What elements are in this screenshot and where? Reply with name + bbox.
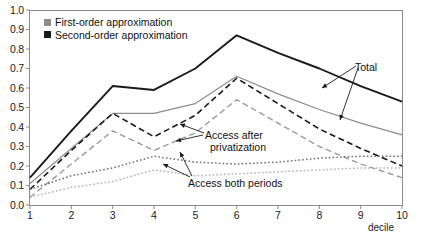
x-axis-title: decile (368, 222, 394, 233)
x-tick-label: 9 (351, 209, 371, 221)
annotation-access-after-line1: Access after (205, 129, 263, 141)
y-tick-label: 0.3 (0, 140, 24, 152)
annotation-arrow (339, 68, 358, 120)
annotation-arrow (180, 152, 192, 176)
y-tick-label: 1.0 (0, 4, 24, 16)
chart-figure: 1.00.90.80.70.60.50.40.30.20.10.0 123456… (0, 0, 422, 242)
y-tick-label: 0.1 (0, 179, 24, 191)
y-tick-label: 0.5 (0, 101, 24, 113)
y-tick-label: 0.2 (0, 160, 24, 172)
annotation-arrow (163, 164, 190, 177)
legend-label-second-order: Second-order approximation (55, 29, 188, 42)
x-tick-label: 3 (103, 209, 123, 221)
x-tick-label: 4 (144, 209, 164, 221)
x-tick-label: 8 (309, 209, 329, 221)
y-tick-label: 0.4 (0, 121, 24, 133)
annotation-arrows-layer (163, 66, 358, 177)
y-tick-label: 0.7 (0, 62, 24, 74)
legend-item-second-order: Second-order approximation (44, 29, 188, 42)
legend-item-first-order: First-order approximation (44, 16, 188, 29)
annotation-arrow (176, 135, 203, 142)
x-tick-label: 10 (392, 209, 412, 221)
series-line (30, 35, 402, 177)
y-tick-label: 0.8 (0, 43, 24, 55)
x-tick-label: 7 (268, 209, 288, 221)
legend-swatch-icon (44, 19, 51, 26)
y-tick-label: 0.9 (0, 23, 24, 35)
x-tick-label: 5 (185, 209, 205, 221)
annotation-arrow (322, 66, 356, 88)
series-layer (30, 35, 402, 197)
x-tick-label: 1 (20, 209, 40, 221)
x-tick-label: 2 (61, 209, 81, 221)
annotation-access-after-line2: privatization (210, 141, 266, 153)
legend-label-first-order: First-order approximation (55, 16, 172, 29)
legend: First-order approximation Second-order a… (44, 16, 188, 41)
annotation-access-both: Access both periods (188, 177, 283, 189)
legend-swatch-icon (44, 31, 51, 38)
x-tick-label: 6 (227, 209, 247, 221)
y-tick-label: 0.6 (0, 82, 24, 94)
annotation-total: Total (355, 61, 377, 73)
